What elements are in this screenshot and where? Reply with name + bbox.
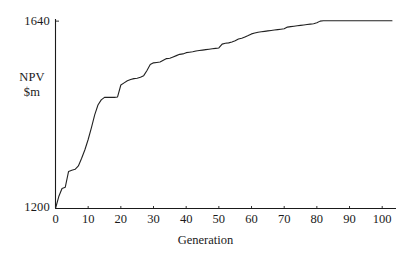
x-axis-tick-label: 70 <box>278 212 291 227</box>
x-axis-tick-label: 20 <box>115 212 128 227</box>
y-axis-tick-label-bottom: 1200 <box>14 200 50 215</box>
x-axis-tick-label: 90 <box>343 212 356 227</box>
chart-figure: 1640 1200 NPV$m Generation 0102030405060… <box>0 0 411 261</box>
x-axis-title: Generation <box>0 233 411 248</box>
y-axis-title: NPV$m <box>12 70 52 100</box>
x-axis-tick-label: 60 <box>245 212 258 227</box>
y-axis-tick-label-top: 1640 <box>14 14 50 29</box>
x-axis-tick-label: 100 <box>373 212 392 227</box>
x-axis-tick-label: 40 <box>180 212 193 227</box>
x-axis-tick-label: 80 <box>311 212 324 227</box>
x-axis-tick-label: 0 <box>52 212 58 227</box>
y-axis-title-line1: NPV <box>19 70 45 84</box>
x-axis-tick-label: 30 <box>147 212 160 227</box>
y-axis-title-line2: $m <box>12 85 52 100</box>
x-axis-tick-label: 10 <box>82 212 95 227</box>
x-axis-tick-label: 50 <box>213 212 226 227</box>
